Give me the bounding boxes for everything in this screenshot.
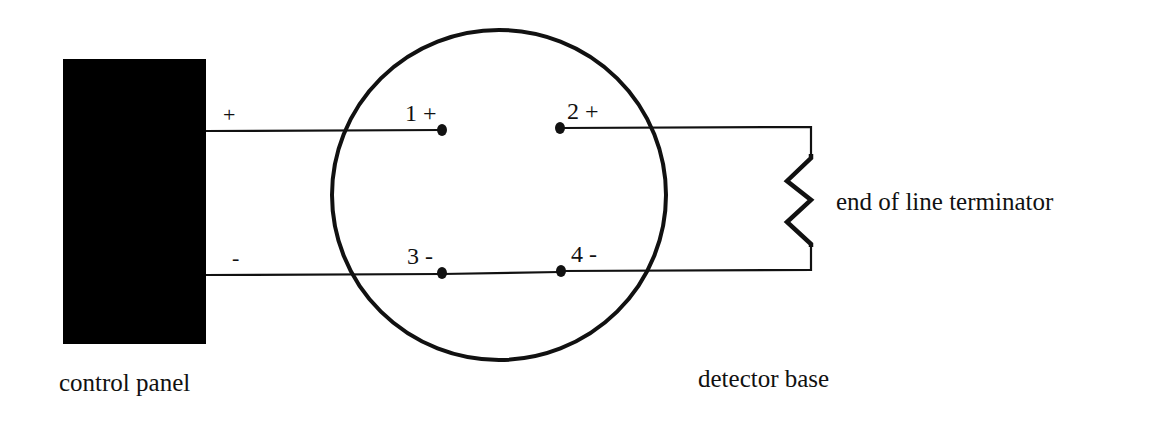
control-panel-block [63,59,206,344]
terminal-1-label: 1 + [405,100,437,126]
eol-resistor-zigzag [787,154,811,247]
eol-terminator-label: end of line terminator [836,188,1054,215]
panel-negative-label: - [232,245,239,270]
terminal-2-label: 2 + [567,98,599,124]
panel-positive-label: + [223,102,235,127]
terminal-3-dot [437,267,447,279]
wiring-diagram: 1 + 2 + 3 - 4 - + - end of line terminat… [0,0,1154,425]
terminal-2-dot [555,122,565,134]
positive-wire-panel-to-t1 [206,130,442,131]
wire-t2-to-eol [560,127,811,154]
terminal-1-dot [437,124,447,136]
terminal-4-label: 4 - [571,241,597,267]
terminal-4-dot [556,265,566,277]
wire-eol-to-t4 [560,247,811,271]
negative-wire-panel-to-t3-t4 [206,272,560,275]
detector-base-circle [332,30,666,360]
control-panel-label: control panel [59,369,190,396]
detector-base-label: detector base [698,365,829,392]
terminal-3-label: 3 - [407,243,433,269]
